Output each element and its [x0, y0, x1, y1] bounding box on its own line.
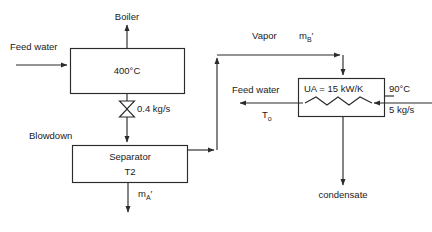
heat-exchanger-coil	[305, 97, 372, 105]
valve-lower-triangle	[120, 109, 135, 117]
boiler-label: Boiler	[115, 12, 139, 22]
valve-upper-triangle	[120, 101, 135, 109]
blowdown-label: Blowdown	[29, 131, 72, 141]
feed-water-inlet-label: Feed water	[10, 42, 58, 52]
separator-liquid-flow-prime: ′	[151, 188, 153, 199]
process-flow-diagram: Boiler Feed water 400°C 0.4 kg/s Blowdow…	[0, 0, 432, 232]
vapor-flow-prime: ′	[312, 30, 314, 41]
vapor-label: Vapor	[252, 31, 277, 41]
valve-flow-label: 0.4 kg/s	[137, 104, 170, 114]
hx-ua-label: UA = 15 kW/K	[304, 84, 363, 94]
hx-hot-temperature-label: 90°C	[389, 84, 410, 94]
separator-liquid-flow-label: mA′	[138, 189, 152, 201]
vapor-flow-label: mB′	[299, 31, 313, 43]
hx-feedwater-label: Feed water	[232, 85, 280, 95]
condensate-label: condensate	[318, 190, 367, 200]
separator-name-label: Separator	[109, 152, 151, 162]
hx-outlet-temperature-label: To	[262, 110, 272, 122]
hx-hot-flow-label: 5 kg/s	[389, 105, 414, 115]
boiler-temperature-label: 400°C	[114, 66, 141, 76]
hx-outlet-temperature-subscript: o	[268, 115, 272, 122]
separator-temperature-label: T2	[124, 167, 135, 177]
separator-liquid-flow-symbol: m	[138, 188, 146, 199]
vapor-flow-symbol: m	[299, 30, 307, 41]
